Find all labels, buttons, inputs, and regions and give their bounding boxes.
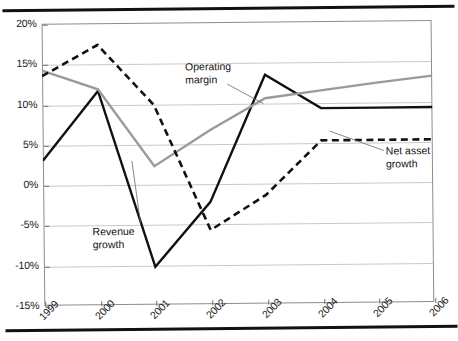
x-axis-tick-label: 2003 bbox=[259, 296, 283, 321]
x-axis-tick-label: 1999 bbox=[36, 298, 60, 323]
x-axis-tick-label: 2000 bbox=[92, 297, 116, 322]
figure-page: 20%15%10%5%0%-5%-10%-15% Operating margi… bbox=[0, 0, 458, 341]
x-axis-tick-label: 2004 bbox=[315, 295, 339, 320]
x-axis-labels: 19992000200120022003200420052006 bbox=[0, 0, 458, 341]
x-axis-tick-label: 2002 bbox=[204, 296, 228, 321]
x-axis-tick-label: 2001 bbox=[148, 297, 172, 322]
x-axis-tick-label: 2006 bbox=[426, 294, 450, 319]
x-axis-tick-label: 2005 bbox=[371, 295, 395, 320]
